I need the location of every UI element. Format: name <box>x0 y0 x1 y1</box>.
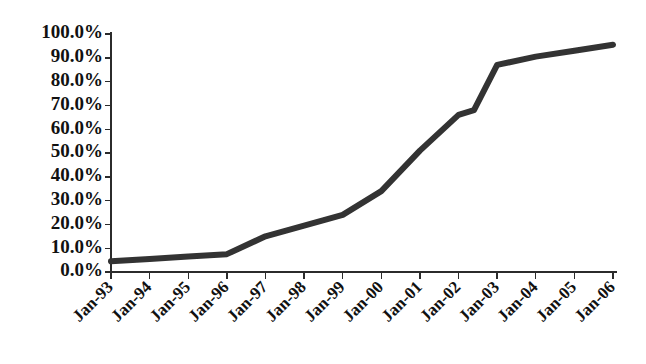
x-axis-tick-label: Jan-05 <box>532 277 580 325</box>
y-axis-tick-label: 60.0% <box>51 117 103 138</box>
y-axis-tick-label: 90.0% <box>51 45 103 66</box>
x-axis-tick-label: Jan-99 <box>300 277 348 325</box>
x-axis-tick-marks <box>111 272 613 279</box>
y-axis-tick-label: 20.0% <box>51 212 103 233</box>
x-axis-tick-label: Jan-03 <box>455 277 503 325</box>
x-axis-tick-label: Jan-93 <box>69 277 117 325</box>
y-axis-tick-label: 100.0% <box>41 21 103 42</box>
x-axis-tick-label: Jan-02 <box>416 277 464 325</box>
x-axis-tick-label: Jan-06 <box>571 277 619 325</box>
y-axis-tick-label: 70.0% <box>51 93 103 114</box>
y-axis-tick-labels: 0.0%10.0%20.0%30.0%40.0%50.0%60.0%70.0%8… <box>41 21 103 280</box>
x-axis-tick-label: Jan-94 <box>107 277 156 326</box>
y-axis-tick-label: 10.0% <box>51 236 103 257</box>
x-axis-tick-label: Jan-01 <box>378 277 426 325</box>
y-axis-tick-label: 0.0% <box>60 259 103 280</box>
x-axis-tick-label: Jan-95 <box>146 277 194 325</box>
x-axis-tick-labels: Jan-93Jan-94Jan-95Jan-96Jan-97Jan-98Jan-… <box>69 277 619 326</box>
y-axis-tick-marks <box>105 34 111 272</box>
chart-container: 0.0%10.0%20.0%30.0%40.0%50.0%60.0%70.0%8… <box>0 0 646 364</box>
x-axis-tick-label: Jan-98 <box>262 277 310 325</box>
x-axis-tick-label: Jan-00 <box>339 277 387 325</box>
line-chart: 0.0%10.0%20.0%30.0%40.0%50.0%60.0%70.0%8… <box>0 0 646 364</box>
y-axis-tick-label: 80.0% <box>51 69 103 90</box>
y-axis-tick-label: 30.0% <box>51 188 103 209</box>
y-axis-tick-label: 40.0% <box>51 164 103 185</box>
data-series-line <box>111 45 613 262</box>
y-axis-tick-label: 50.0% <box>51 140 103 161</box>
x-axis-tick-label: Jan-04 <box>493 277 542 326</box>
x-axis-tick-label: Jan-96 <box>185 277 233 325</box>
x-axis-tick-label: Jan-97 <box>223 277 272 326</box>
